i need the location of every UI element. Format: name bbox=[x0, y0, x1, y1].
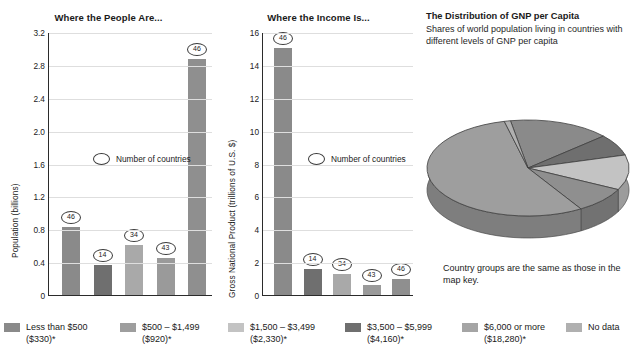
legend-label: $6,000 or more ($18,280)* bbox=[484, 322, 545, 345]
bar-country-count: 34 bbox=[332, 258, 352, 271]
y-axis-tick: 0 bbox=[40, 292, 49, 300]
bar bbox=[62, 227, 80, 295]
bar bbox=[333, 274, 351, 295]
count-oval-icon bbox=[308, 153, 325, 165]
bar-country-count: 46 bbox=[391, 263, 411, 276]
gridline bbox=[49, 230, 212, 231]
legend-swatch bbox=[228, 323, 244, 332]
legend-swatch bbox=[566, 323, 582, 332]
gridline bbox=[49, 165, 212, 166]
y-axis-tick: 8 bbox=[254, 160, 263, 168]
y-axis-tick: 2.8 bbox=[33, 62, 49, 70]
gridline bbox=[49, 33, 212, 34]
y-axis-tick: 2 bbox=[254, 259, 263, 267]
pie-svg bbox=[420, 100, 637, 250]
map-key-legend: Less than $500 ($330)*$500 – $1,499 ($92… bbox=[0, 313, 637, 348]
y-axis-tick: 0 bbox=[254, 292, 263, 300]
legend-swatch bbox=[120, 323, 136, 332]
chart-title-population: Where the People Are... bbox=[0, 12, 217, 23]
pie-chart-gnp bbox=[420, 100, 637, 250]
bar bbox=[392, 279, 410, 295]
chart-panel-income: Where the Income Is... Gross National Pr… bbox=[217, 0, 420, 310]
count-oval-icon bbox=[93, 153, 110, 165]
count-legend-label: Number of countries bbox=[331, 154, 406, 164]
legend-item: $6,000 or more ($18,280)* bbox=[462, 322, 545, 345]
legend-label: $1,500 – $3,499 ($2,330)* bbox=[250, 322, 315, 345]
gridline bbox=[49, 263, 212, 264]
gridline bbox=[263, 230, 413, 231]
y-axis-tick: 0.8 bbox=[33, 226, 49, 234]
chart-title-income: Where the Income Is... bbox=[217, 12, 420, 23]
legend-item: $1,500 – $3,499 ($2,330)* bbox=[228, 322, 315, 345]
gridline bbox=[263, 263, 413, 264]
bar-country-count: 46 bbox=[61, 211, 81, 224]
y-axis-tick: 16 bbox=[250, 29, 263, 37]
y-axis-tick: 4 bbox=[254, 226, 263, 234]
legend-item: Less than $500 ($330)* bbox=[4, 322, 88, 345]
count-legend-income: Number of countries bbox=[308, 153, 406, 165]
y-axis-tick: 1.2 bbox=[33, 193, 49, 201]
y-axis-tick: 1.6 bbox=[33, 160, 49, 168]
y-axis-label-population: Population (billions) bbox=[10, 183, 20, 258]
y-axis-tick: 0.4 bbox=[33, 259, 49, 267]
gnp-note: Country groups are the same as those in … bbox=[443, 262, 633, 286]
bar bbox=[125, 245, 143, 295]
y-axis-label-income: Gross National Product (trillions of U.S… bbox=[227, 140, 237, 298]
legend-swatch bbox=[4, 323, 20, 332]
legend-item: $3,500 – $5,999 ($4,160)* bbox=[345, 322, 432, 345]
gridline bbox=[263, 197, 413, 198]
gridline bbox=[263, 33, 413, 34]
legend-item: $500 – $1,499 ($920)* bbox=[120, 322, 200, 345]
bar bbox=[274, 48, 292, 295]
infographic-root: Where the People Are... Population (bill… bbox=[0, 0, 637, 348]
gnp-heading: The Distribution of GNP per Capita bbox=[426, 11, 631, 21]
legend-swatch bbox=[462, 323, 478, 332]
bar-country-count: 43 bbox=[362, 269, 382, 282]
count-legend-population: Number of countries bbox=[93, 153, 191, 165]
y-axis-tick: 12 bbox=[250, 95, 263, 103]
bar bbox=[94, 265, 112, 295]
plot-area-income: 4614344346 Number of countries 024681012… bbox=[262, 33, 413, 296]
gridline bbox=[49, 99, 212, 100]
bar-country-count: 43 bbox=[156, 242, 176, 255]
gridline bbox=[263, 165, 413, 166]
y-axis-tick: 6 bbox=[254, 193, 263, 201]
y-axis-tick: 14 bbox=[250, 62, 263, 70]
gridline bbox=[263, 132, 413, 133]
chart-panel-gnp-distribution: The Distribution of GNP per Capita Share… bbox=[420, 0, 637, 310]
legend-label: $3,500 – $5,999 ($4,160)* bbox=[367, 322, 432, 345]
bar bbox=[188, 59, 206, 295]
gridline bbox=[49, 66, 212, 67]
y-axis-tick: 10 bbox=[250, 127, 263, 135]
bar-country-count: 14 bbox=[93, 249, 113, 262]
bar bbox=[363, 285, 381, 295]
y-axis-tick: 3.2 bbox=[33, 29, 49, 37]
legend-item: No data bbox=[566, 322, 620, 334]
count-legend-label: Number of countries bbox=[116, 154, 191, 164]
gridline bbox=[263, 99, 413, 100]
gnp-subheading: Shares of world population living in cou… bbox=[426, 23, 631, 47]
gridline bbox=[49, 197, 212, 198]
bar bbox=[304, 269, 322, 295]
y-axis-tick: 2.4 bbox=[33, 95, 49, 103]
bar-country-count: 46 bbox=[273, 32, 293, 45]
y-axis-tick: 2.0 bbox=[33, 127, 49, 135]
plot-area-population: 4614344346 Number of countries 00.40.81.… bbox=[48, 33, 212, 296]
gridline bbox=[263, 66, 413, 67]
gridline bbox=[49, 132, 212, 133]
gnp-header-block: The Distribution of GNP per Capita Share… bbox=[426, 11, 631, 47]
chart-panel-population: Where the People Are... Population (bill… bbox=[0, 0, 217, 310]
legend-label: $500 – $1,499 ($920)* bbox=[142, 322, 200, 345]
legend-label: Less than $500 ($330)* bbox=[26, 322, 88, 345]
legend-swatch bbox=[345, 323, 361, 332]
legend-label: No data bbox=[588, 322, 620, 334]
bar-country-count: 46 bbox=[187, 43, 207, 56]
